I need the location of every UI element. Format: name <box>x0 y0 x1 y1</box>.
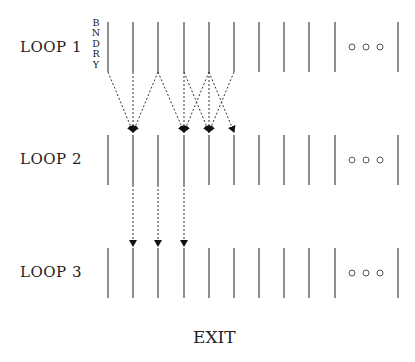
ellipsis-circle <box>377 270 383 276</box>
ellipsis-circle <box>363 44 369 50</box>
ellipsis-circle <box>377 44 383 50</box>
ellipsis-circles <box>349 44 383 276</box>
loop-dependence-diagram <box>0 0 415 362</box>
dependence-arrow <box>108 72 133 132</box>
dependence-arrow <box>158 72 184 132</box>
ellipsis-circle <box>349 157 355 163</box>
ellipsis-circle <box>377 157 383 163</box>
ellipsis-circle <box>363 270 369 276</box>
ellipsis-circle <box>363 157 369 163</box>
dependence-arrows <box>108 72 234 246</box>
ellipsis-circle <box>349 44 355 50</box>
ellipsis-circle <box>349 270 355 276</box>
exit-label: EXIT <box>193 327 236 347</box>
dependence-arrow <box>133 72 158 132</box>
